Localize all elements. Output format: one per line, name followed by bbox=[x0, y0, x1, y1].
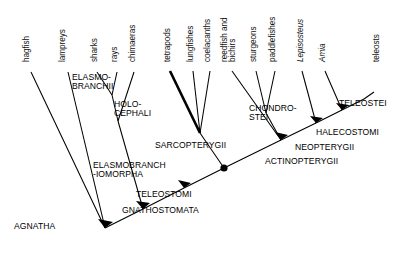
actinopterygii-node bbox=[275, 132, 288, 140]
neopterygii-node bbox=[310, 116, 323, 123]
tip-label-coelacanths: coelacanths bbox=[203, 19, 212, 62]
tip-label-paddlefishes: paddlefishes bbox=[268, 17, 277, 62]
branch-lampreys bbox=[68, 72, 105, 228]
clade-label-chondrostei: CHONDRO- STEI bbox=[249, 104, 297, 123]
tip-label-amia: Amia bbox=[318, 44, 327, 62]
clade-label-elasmobranchiomorpha: ELASMOBRANCH -IOMORPHA bbox=[93, 161, 166, 180]
tip-label-tetrapods: tetrapods bbox=[163, 28, 172, 62]
tip-label-teleosts: teleosts bbox=[372, 34, 381, 62]
tip-label-lepisosteus: Lepisosteus bbox=[296, 19, 305, 62]
tip-label-hagfish: hagfish bbox=[22, 36, 31, 62]
tip-label-reedfish-and-bichirs: reedfish andbichirs bbox=[221, 18, 238, 62]
clade-label-agnatha: AGNATHA bbox=[14, 222, 55, 231]
branch-coelacanths bbox=[200, 71, 210, 133]
spine-neopterygii-to-halecostomi bbox=[316, 110, 342, 123]
spine-actinopterygii-to-neopterygii bbox=[281, 123, 316, 140]
branch-tetrapods bbox=[170, 71, 200, 133]
tip-label-rays: rays bbox=[110, 47, 119, 62]
branch-hagfish bbox=[31, 72, 105, 228]
clade-label-elasmobranchii: ELASMO- BRANCHII bbox=[72, 73, 113, 92]
clade-label-teleostei: TELEOSTEI bbox=[339, 99, 387, 108]
tip-label-sharks: sharks bbox=[90, 38, 99, 62]
clade-label-neopterygii: NEOPTERYGII bbox=[295, 143, 354, 152]
branch-lepisosteus bbox=[302, 71, 316, 123]
branch-sarcopterygii-stem bbox=[200, 133, 224, 168]
spine-elasmobranchiomorpha-to-teleostomi bbox=[184, 168, 224, 188]
tip-label-lampreys: lampreys bbox=[58, 29, 67, 62]
teleostomi-node bbox=[220, 164, 227, 171]
tip-label-sturgeons: sturgeons bbox=[249, 26, 258, 62]
clade-label-actinopterygii: ACTINOPTERYGII bbox=[265, 157, 338, 166]
tip-label-lungfishes: lungfishes bbox=[186, 26, 195, 62]
elasmobranchiomorpha-node bbox=[178, 180, 191, 188]
clade-label-holocephali: HOLO- CEPHALI bbox=[114, 100, 151, 119]
clade-label-sarcopterygii: SARCOPTERYGII bbox=[155, 141, 226, 150]
clade-label-gnathostomata: GNATHOSTOMATA bbox=[122, 206, 199, 215]
tip-label-chimaeras: chimaeras bbox=[128, 25, 137, 62]
agnatha-node-arrowhead bbox=[98, 219, 113, 228]
clade-label-halecostomi: HALECOSTOMI bbox=[316, 128, 379, 137]
clade-label-teleostomi: TELEOSTOMI bbox=[136, 190, 192, 199]
